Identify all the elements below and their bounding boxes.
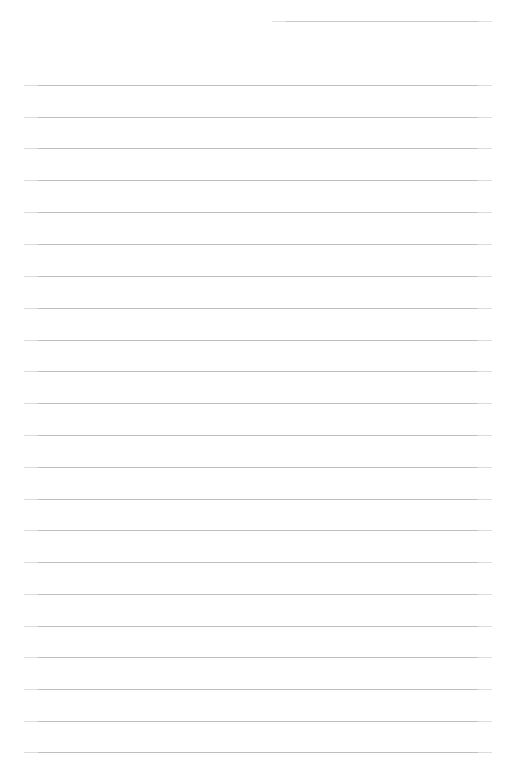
writing-area[interactable]: [0, 0, 505, 776]
lined-paper-page: [0, 0, 505, 776]
